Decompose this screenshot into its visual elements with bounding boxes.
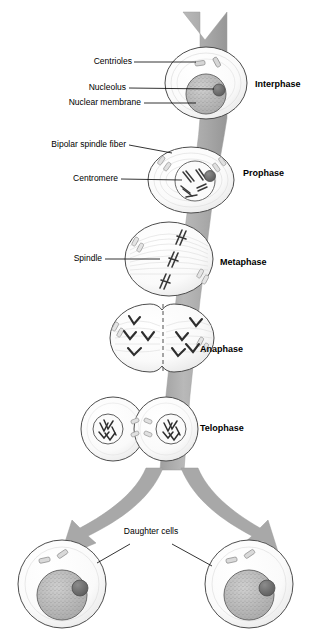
nucleolus-prophase [205, 171, 216, 182]
cell-daughter-left [18, 540, 106, 628]
cell-daughter-right [205, 540, 293, 628]
label-nucleolus: Nucleolus [58, 82, 126, 92]
label-spindle: Spindle [58, 253, 102, 263]
nucleolus-interphase [213, 84, 225, 96]
nucleolus-daughter-left [72, 580, 88, 596]
cell-interphase [165, 47, 247, 119]
leader-bipolar-spindle-fiber [129, 145, 172, 153]
label-centrioles: Centrioles [58, 56, 132, 66]
label-prophase: Prophase [243, 168, 284, 178]
mitosis-diagram: Centrioles Nucleolus Nuclear membrane Bi… [0, 0, 312, 636]
label-telophase: Telophase [200, 423, 244, 433]
label-centromere: Centromere [42, 173, 118, 183]
nucleus-prophase [175, 161, 216, 201]
mitosis-svg [0, 0, 312, 636]
label-anaphase: Anaphase [200, 344, 243, 354]
label-metaphase: Metaphase [220, 257, 267, 267]
cell-telophase [81, 397, 198, 461]
leader-daughter-left [97, 544, 130, 563]
label-nuclear-membrane: Nuclear membrane [34, 97, 141, 107]
label-bipolar-spindle-fiber: Bipolar spindle fiber [16, 139, 126, 149]
label-daughter-cells: Daughter cells [119, 526, 183, 537]
cell-anaphase [110, 304, 214, 372]
leader-daughter-right [172, 544, 212, 566]
nucleus-telophase-right [156, 414, 186, 444]
nucleus-interphase [186, 74, 226, 114]
label-interphase: Interphase [255, 79, 301, 89]
nucleolus-daughter-right [259, 580, 275, 596]
